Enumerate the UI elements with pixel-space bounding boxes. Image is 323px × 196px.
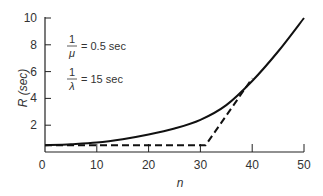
x-tick-label: 50 [297,158,311,172]
annotation-lambda-denominator: λ [68,80,74,92]
x-ticks: 01020304050 [39,144,311,172]
y-tick-label: 10 [24,11,38,25]
y-tick-label: 8 [30,38,37,52]
x-tick-label: 0 [39,158,46,172]
x-tick-label: 20 [142,158,156,172]
y-tick-label: 4 [30,91,37,105]
annotation-mu-numerator: 1 [69,33,75,45]
x-tick-label: 30 [194,158,208,172]
annotation-mu: 1 μ = 0.5 sec [67,33,126,59]
x-tick-label: 40 [246,158,260,172]
y-tick-label: 2 [30,118,37,132]
x-tick-label: 10 [90,158,104,172]
y-axis-label: R (sec) [16,69,30,108]
annotation-lambda-numerator: 1 [69,66,75,78]
y-tick-label: 6 [30,65,37,79]
chart: 246810 01020304050 R (sec) n 1 μ = 0.5 s… [0,0,323,196]
annotation-mu-value: = 0.5 sec [81,40,126,52]
x-axis-label: n [177,176,184,190]
annotation-lambda-value: = 15 sec [81,73,123,85]
annotation-mu-denominator: μ [68,47,75,59]
annotation-lambda: 1 λ = 15 sec [67,66,123,92]
